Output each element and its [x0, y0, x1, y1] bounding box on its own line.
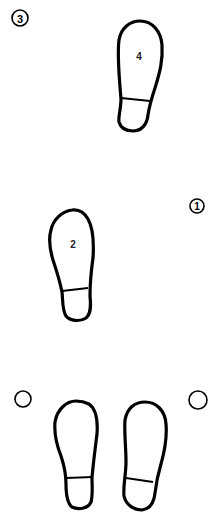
footprint-diagram: 3 4 1 2	[0, 0, 221, 523]
footprint-4-number: 4	[136, 51, 142, 62]
circle-marker-left	[15, 391, 31, 407]
circled-number-1: 1	[190, 199, 204, 213]
diagram-svg: 3 4 1 2	[0, 0, 221, 523]
circled-number-3: 3	[12, 10, 28, 26]
marker-1-label: 1	[194, 201, 200, 212]
footprint-4: 4	[118, 21, 162, 131]
footprint-start-right	[124, 402, 166, 510]
footprint-2: 2	[50, 210, 94, 321]
circle-marker-right	[189, 391, 207, 409]
marker-3-label: 3	[17, 13, 23, 25]
footprint-2-number: 2	[70, 239, 76, 250]
footprint-start-left	[55, 401, 97, 509]
